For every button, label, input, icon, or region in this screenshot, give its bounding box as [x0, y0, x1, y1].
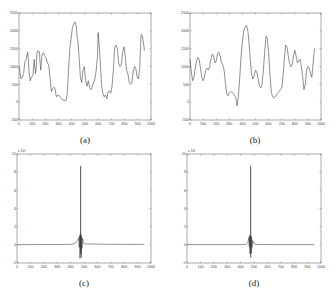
x-tick-label: 900	[135, 122, 141, 126]
x-tick-label: 500	[81, 265, 87, 269]
x-tick-label: 100	[27, 265, 33, 269]
y-multiplier-c: x 10⁷	[18, 149, 27, 153]
x-tick-label: 200	[41, 265, 47, 269]
y-tick-label: 4	[184, 207, 186, 211]
x-tick-label: 300	[226, 122, 232, 126]
x-tick-label: 400	[239, 122, 245, 126]
x-tick-label: 900	[135, 265, 141, 269]
y-tick-label: 2000	[10, 29, 18, 33]
y-tick-label: 2500	[181, 11, 189, 15]
x-tick-label: 400	[68, 265, 74, 269]
panel-b: 01002003004005006007008009001000-5000500…	[181, 11, 325, 145]
x-tick-label: 700	[278, 265, 284, 269]
x-tick-label: 0	[189, 122, 191, 126]
y-tick-label: 1000	[181, 65, 189, 69]
x-tick-label: 300	[224, 265, 230, 269]
caption-d: (d)	[249, 278, 260, 288]
plot-area-c	[17, 154, 151, 263]
x-tick-label: 800	[292, 122, 298, 126]
y-tick-label: 4	[14, 207, 16, 211]
y-tick-label: 0	[16, 100, 18, 104]
y-tick-label: 2	[184, 225, 186, 229]
x-tick-label: 900	[305, 122, 311, 126]
x-tick-label: 400	[69, 122, 75, 126]
x-tick-label: 1000	[147, 122, 155, 126]
y-tick-label: 500	[183, 83, 189, 87]
x-tick-label: 700	[108, 265, 114, 269]
x-tick-label: 100	[29, 122, 35, 126]
caption-b: (b)	[250, 135, 261, 145]
x-tick-label: 0	[18, 122, 20, 126]
y-tick-label: -2	[183, 261, 186, 265]
y-tick-label: 2	[14, 225, 16, 229]
x-tick-label: 500	[251, 265, 257, 269]
x-tick-label: 700	[279, 122, 285, 126]
y-tick-label: 8	[14, 170, 16, 174]
x-tick-label: 0	[16, 265, 18, 269]
x-tick-label: 600	[266, 122, 272, 126]
figure: 01002003004005006007008009001000-5000500…	[0, 0, 335, 298]
y-tick-label: 6	[14, 189, 16, 193]
x-tick-label: 600	[264, 265, 270, 269]
caption-a: (a)	[80, 135, 90, 145]
y-tick-label: 1500	[10, 47, 18, 51]
y-tick-label: -500	[182, 118, 189, 122]
x-tick-label: 400	[238, 265, 244, 269]
x-tick-label: 100	[197, 265, 203, 269]
x-tick-label: 0	[186, 265, 188, 269]
y-tick-label: -2	[13, 261, 16, 265]
x-tick-label: 300	[56, 122, 62, 126]
panel-c: 01002003004005006007008009001000-2024681…	[12, 149, 155, 288]
y-tick-label: 2000	[181, 29, 189, 33]
x-tick-label: 600	[95, 122, 101, 126]
x-tick-label: 800	[121, 265, 127, 269]
x-tick-label: 700	[108, 122, 114, 126]
y-tick-label: 1000	[10, 65, 18, 69]
x-tick-label: 900	[305, 265, 311, 269]
y-tick-label: 8	[184, 170, 186, 174]
x-tick-label: 200	[211, 265, 217, 269]
x-tick-label: 500	[82, 122, 88, 126]
x-tick-label: 500	[253, 122, 259, 126]
x-tick-label: 800	[122, 122, 128, 126]
x-tick-label: 1000	[147, 265, 155, 269]
y-tick-label: 0	[187, 100, 189, 104]
y-tick-label: -500	[11, 118, 18, 122]
x-tick-label: 1000	[317, 265, 325, 269]
x-tick-label: 100	[200, 122, 206, 126]
y-tick-label: 500	[12, 83, 18, 87]
x-tick-label: 200	[213, 122, 219, 126]
panel-d: 01002003004005006007008009001000-2024681…	[182, 149, 325, 288]
y-tick-label: 10	[12, 152, 16, 156]
y-multiplier-d: x 10⁷	[188, 149, 197, 153]
plot-area-d	[187, 154, 321, 263]
y-tick-label: 0	[184, 243, 186, 247]
caption-c: (c)	[79, 278, 89, 288]
x-tick-label: 600	[94, 265, 100, 269]
y-tick-label: 1500	[181, 47, 189, 51]
y-tick-label: 10	[182, 152, 186, 156]
x-tick-label: 300	[54, 265, 60, 269]
y-tick-label: 6	[184, 189, 186, 193]
plot-area-a	[19, 13, 151, 120]
x-tick-label: 1000	[317, 122, 325, 126]
x-tick-label: 800	[291, 265, 297, 269]
x-tick-label: 200	[42, 122, 48, 126]
y-tick-label: 0	[14, 243, 16, 247]
panel-a: 01002003004005006007008009001000-5000500…	[10, 11, 155, 145]
y-tick-label: 2500	[10, 11, 18, 15]
